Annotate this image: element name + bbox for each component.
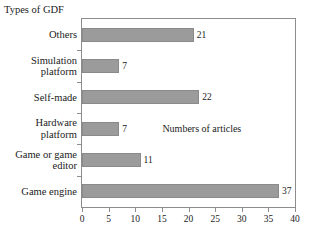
x-axis-tick-label: 35 [264,214,274,225]
y-axis-category-label-line: Game engine [21,186,77,198]
bar-value-label: 37 [279,186,292,196]
bar [82,28,194,42]
x-axis-tick-label: 20 [184,214,194,225]
bar-chart: Types of GDF Numbers of articles 3711722… [0,0,311,236]
y-axis-tick [77,82,82,83]
x-axis-tick [189,208,190,212]
y-axis-category-label: Others [49,29,77,41]
x-axis-tick [242,208,243,212]
bar-row: 21 [82,28,295,42]
bar-value-label: 21 [194,30,207,40]
bar [82,153,141,167]
x-axis-tick [82,208,83,212]
y-axis-category-label-line: Self-made [34,92,77,104]
x-axis-tick [135,208,136,212]
y-axis-tick [77,176,82,177]
x-axis-tick-label: 10 [131,214,141,225]
y-axis-category-label-line: platform [36,129,77,141]
y-axis-category-label-line: editor [15,160,77,172]
bar-row: 22 [82,90,295,104]
bar-value-label: 11 [141,155,153,165]
x-axis-tick-label: 5 [106,214,111,225]
x-axis-tick [215,208,216,212]
x-axis-tick-label: 25 [210,214,220,225]
bar [82,90,199,104]
y-axis-category-label: Game engine [21,186,77,198]
x-axis-tick [295,208,296,212]
bar-value-label: 7 [119,124,127,134]
y-axis-category-label-line: Simulation [31,55,77,67]
y-axis-category-label: Game or gameeditor [15,149,77,172]
y-axis-category-label-line: Game or game [15,149,77,161]
x-axis-tick-label: 40 [290,214,300,225]
x-axis-tick [109,208,110,212]
x-axis-tick [268,208,269,212]
y-axis-category-label: Self-made [34,92,77,104]
y-axis-category-label: Hardwareplatform [36,117,77,140]
bar [82,184,279,198]
bar-row: 7 [82,122,295,136]
bar-row: 11 [82,153,295,167]
bar-row: 7 [82,59,295,73]
y-axis-tick [77,144,82,145]
bar-value-label: 7 [119,61,127,71]
y-axis-title: Types of GDF [4,4,64,16]
bar-row: 37 [82,184,295,198]
bar [82,122,119,136]
x-axis-tick-label: 0 [80,214,85,225]
bar [82,59,119,73]
y-axis-tick [77,113,82,114]
x-axis-tick-label: 15 [157,214,167,225]
x-axis-tick [162,208,163,212]
y-axis-category-label-line: platform [31,66,77,78]
bar-value-label: 22 [199,92,212,102]
x-axis-tick-label: 30 [237,214,247,225]
y-axis-category-label: Simulationplatform [31,55,77,78]
y-axis-category-label-line: Hardware [36,117,77,129]
bars-area: 3711722721 [82,19,295,207]
y-axis-tick [77,50,82,51]
y-axis-category-label-line: Others [49,29,77,41]
